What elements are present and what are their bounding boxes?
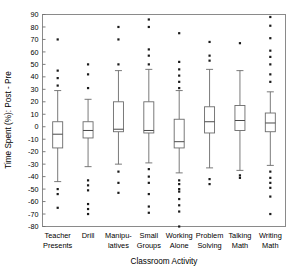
- outlier-point: [178, 87, 180, 89]
- outlier-point: [239, 174, 241, 176]
- x-category-label: Small: [140, 231, 159, 240]
- outlier-point: [148, 48, 150, 50]
- outlier-point: [178, 68, 180, 70]
- outlier-point: [87, 179, 89, 181]
- outlier-point: [269, 16, 271, 18]
- y-tick-label: 90: [31, 10, 39, 19]
- plot-frame: [43, 15, 286, 227]
- outlier-point: [208, 60, 210, 62]
- box-plot-item: [235, 42, 245, 179]
- outlier-point: [117, 182, 119, 184]
- outlier-point: [239, 42, 241, 44]
- x-category-label: Groups: [137, 241, 162, 250]
- y-tick-label: -70: [28, 210, 38, 219]
- outlier-point: [178, 204, 180, 206]
- box-plot-item: [83, 63, 93, 215]
- outlier-point: [269, 195, 271, 197]
- outlier-point: [208, 183, 210, 185]
- outlier-point: [87, 189, 89, 191]
- box-plot-item: [53, 38, 63, 209]
- x-axis-title: Classroom Activity: [131, 257, 199, 266]
- y-tick-label: 40: [31, 72, 39, 81]
- outlier-point: [269, 25, 271, 27]
- x-category-label: Alone: [170, 241, 189, 250]
- outlier-point: [178, 210, 180, 212]
- x-category-label: Working: [166, 231, 193, 240]
- y-tick-label: 20: [31, 97, 39, 106]
- chart-canvas: 9080706050403020100-10-20-30-40-50-60-70…: [0, 0, 308, 271]
- outlier-point: [269, 182, 271, 184]
- plot-frame-group: [43, 15, 286, 227]
- y-tick-label: -40: [28, 172, 38, 181]
- box-plot-item: [144, 18, 154, 213]
- x-category-label: Presents: [43, 241, 72, 250]
- outlier-point: [148, 63, 150, 65]
- x-category-label: Drill: [82, 231, 95, 240]
- box-plot-item: [205, 41, 215, 185]
- iqr-box: [235, 106, 245, 131]
- outlier-point: [57, 38, 59, 40]
- x-category-label: Writing: [259, 231, 282, 240]
- outlier-point: [87, 87, 89, 89]
- outlier-point: [208, 55, 210, 57]
- y-tick-label: -50: [28, 185, 38, 194]
- outlier-point: [208, 41, 210, 43]
- box-plot-chart: 9080706050403020100-10-20-30-40-50-60-70…: [0, 0, 308, 271]
- outlier-point: [269, 50, 271, 52]
- outlier-point: [57, 207, 59, 209]
- outlier-point: [87, 184, 89, 186]
- iqr-box: [53, 122, 63, 148]
- outlier-point: [57, 70, 59, 72]
- outlier-point: [178, 183, 180, 185]
- outlier-point: [148, 176, 150, 178]
- outlier-point: [269, 177, 271, 179]
- outlier-point: [178, 225, 180, 227]
- outlier-point: [117, 38, 119, 40]
- x-category-label: Solving: [197, 241, 221, 250]
- outlier-point: [148, 182, 150, 184]
- outlier-point: [178, 179, 180, 181]
- outlier-point: [269, 37, 271, 39]
- iqr-box: [83, 122, 93, 138]
- box-plot-series: [53, 16, 276, 228]
- outlier-point: [269, 187, 271, 189]
- x-category-label: latives: [108, 241, 129, 250]
- outlier-point: [178, 81, 180, 83]
- outlier-point: [178, 198, 180, 200]
- y-tick-label: 10: [31, 110, 39, 119]
- outlier-point: [148, 193, 150, 195]
- outlier-point: [87, 203, 89, 205]
- y-tick-label: 80: [31, 23, 39, 32]
- iqr-box: [174, 119, 184, 148]
- outlier-point: [148, 18, 150, 20]
- outlier-point: [148, 55, 150, 57]
- y-tick-label: 50: [31, 60, 39, 69]
- outlier-point: [239, 177, 241, 179]
- box-plot-item: [174, 32, 184, 227]
- outlier-point: [57, 188, 59, 190]
- outlier-point: [178, 190, 180, 192]
- outlier-point: [148, 205, 150, 207]
- outlier-point: [87, 213, 89, 215]
- iqr-box: [113, 102, 123, 132]
- outlier-point: [148, 26, 150, 28]
- outlier-point: [269, 56, 271, 58]
- y-tick-label: -30: [28, 160, 38, 169]
- x-category-label: Manipu-: [105, 231, 132, 240]
- x-axis-category-labels: TeacherPresentsDrillManipu-lativesSmallG…: [43, 231, 282, 250]
- iqr-box: [144, 102, 154, 133]
- y-tick-label: 60: [31, 48, 39, 57]
- x-category-label: Math: [232, 241, 248, 250]
- outlier-point: [87, 208, 89, 210]
- outlier-point: [117, 192, 119, 194]
- outlier-point: [269, 63, 271, 65]
- iqr-box: [265, 113, 275, 132]
- box-plot-item: [113, 26, 123, 194]
- outlier-point: [269, 81, 271, 83]
- outlier-point: [148, 212, 150, 214]
- outlier-point: [148, 168, 150, 170]
- outlier-point: [208, 178, 210, 180]
- outlier-point: [117, 171, 119, 173]
- outlier-point: [117, 26, 119, 28]
- outlier-point: [269, 73, 271, 75]
